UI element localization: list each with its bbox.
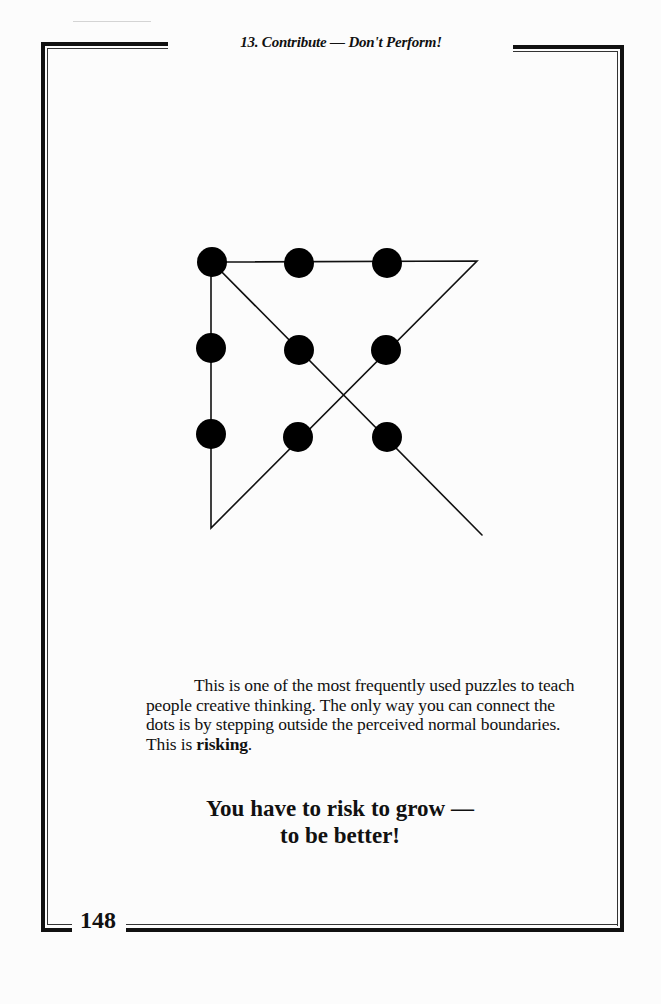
dot-r2-c2 xyxy=(284,335,314,365)
solution-path xyxy=(211,261,482,535)
dot-r2-c3 xyxy=(371,335,401,365)
dot-r3-c2 xyxy=(283,422,313,452)
emphasis-line-1: You have to risk to grow — xyxy=(170,795,510,822)
dot-r1-c2 xyxy=(284,248,314,278)
emphasis-callout: You have to risk to grow — to be better! xyxy=(170,795,510,849)
page-number: 148 xyxy=(80,906,116,934)
paragraph-bold-word: risking xyxy=(196,734,247,754)
body-paragraph: This is one of the most frequently used … xyxy=(146,676,576,754)
paragraph-end: . xyxy=(248,734,252,754)
dot-r3-c3 xyxy=(372,422,402,452)
dot-r1-c1 xyxy=(197,247,227,277)
dot-r3-c1 xyxy=(196,419,226,449)
dot-r2-c1 xyxy=(196,333,226,363)
emphasis-line-2: to be better! xyxy=(170,822,510,849)
dot-r1-c3 xyxy=(372,248,402,278)
nine-dot-puzzle-figure xyxy=(0,0,661,1004)
solution-lines xyxy=(211,261,482,535)
